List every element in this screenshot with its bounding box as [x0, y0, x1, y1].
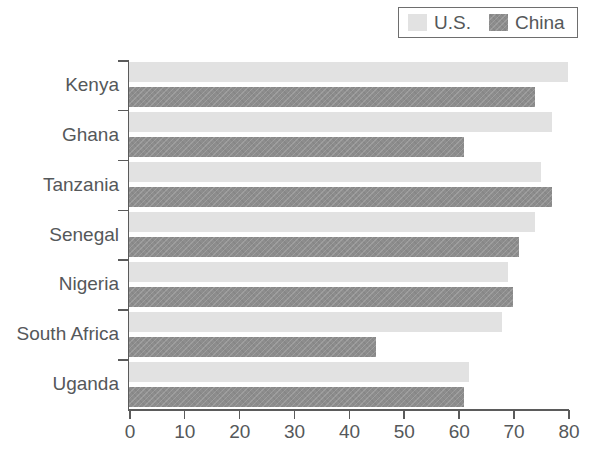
bar-china-tanzania	[129, 187, 552, 207]
plot-area: 01020304050607080	[129, 60, 569, 409]
x-axis-tick	[458, 410, 460, 419]
category-label-senegal: Senegal	[49, 225, 119, 245]
bar-china-uganda	[129, 387, 464, 407]
legend-entry-us: U.S.	[408, 13, 471, 32]
bar-chart: U.S. China KenyaGhanaTanzaniaSenegalNige…	[0, 0, 594, 450]
x-axis-tick-label: 80	[558, 421, 579, 443]
x-axis-tick-label: 10	[174, 421, 195, 443]
x-axis-tick-label: 70	[504, 421, 525, 443]
bar-china-south-africa	[129, 337, 376, 357]
x-axis-tick-label: 50	[394, 421, 415, 443]
bar-us-tanzania	[129, 162, 541, 182]
legend-label-us: U.S.	[434, 13, 471, 32]
legend-label-china: China	[515, 13, 565, 32]
x-axis-tick	[568, 410, 570, 419]
bar-us-uganda	[129, 362, 469, 382]
y-axis-tick	[118, 110, 128, 112]
chart-legend: U.S. China	[398, 7, 578, 38]
category-label-tanzania: Tanzania	[43, 175, 119, 195]
legend-swatch-us-icon	[408, 14, 427, 31]
y-axis-category-labels: KenyaGhanaTanzaniaSenegalNigeriaSouth Af…	[0, 60, 119, 409]
x-axis-tick	[239, 410, 241, 419]
legend-swatch-china-icon	[489, 14, 508, 31]
x-axis-tick	[184, 410, 186, 419]
x-axis-tick	[294, 410, 296, 419]
x-axis-tick-label: 30	[284, 421, 305, 443]
bar-us-senegal	[129, 212, 535, 232]
x-axis-tick	[513, 410, 515, 419]
bar-china-nigeria	[129, 287, 513, 307]
y-axis-tick	[118, 160, 128, 162]
x-axis-tick	[129, 410, 131, 419]
y-axis-tick	[118, 210, 128, 212]
category-label-nigeria: Nigeria	[59, 274, 119, 294]
x-axis-tick-label: 40	[339, 421, 360, 443]
bar-us-ghana	[129, 112, 552, 132]
bar-us-south-africa	[129, 312, 502, 332]
bar-china-senegal	[129, 237, 519, 257]
x-axis-tick-label: 0	[125, 421, 136, 443]
x-axis-tick	[403, 410, 405, 419]
bar-us-nigeria	[129, 262, 508, 282]
y-axis-tick	[118, 359, 128, 361]
category-label-uganda: Uganda	[52, 374, 119, 394]
y-axis-tick	[118, 309, 128, 311]
bar-us-kenya	[129, 62, 568, 82]
bar-china-kenya	[129, 87, 535, 107]
legend-entry-china: China	[489, 13, 565, 32]
category-label-kenya: Kenya	[65, 75, 119, 95]
x-axis-tick	[349, 410, 351, 419]
category-label-ghana: Ghana	[62, 125, 119, 145]
y-axis-tick	[118, 60, 128, 62]
x-axis-tick-label: 60	[449, 421, 470, 443]
category-label-south-africa: South Africa	[17, 324, 119, 344]
x-axis-tick-label: 20	[229, 421, 250, 443]
bar-china-ghana	[129, 137, 464, 157]
y-axis-tick	[118, 259, 128, 261]
